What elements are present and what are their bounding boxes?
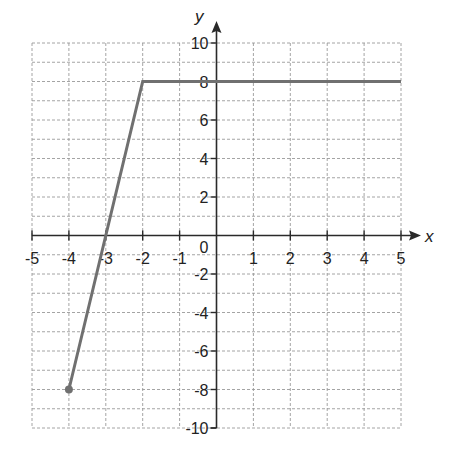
x-tick-labels: -5-4-3-2-112345 [25, 250, 406, 267]
x-tick-label: -2 [136, 250, 150, 267]
data-series [65, 82, 401, 394]
x-tick-label: -5 [25, 250, 39, 267]
x-tick-label: 3 [323, 250, 332, 267]
y-axis-label: y [194, 7, 205, 26]
y-tick-label: -10 [185, 420, 208, 437]
y-tick-label: 6 [200, 112, 209, 129]
x-axis-label: x [424, 227, 434, 246]
y-tick-label: -2 [194, 266, 208, 283]
x-tick-label: 5 [397, 250, 406, 267]
x-tick-label: 4 [360, 250, 369, 267]
y-tick-label: -8 [194, 382, 208, 399]
x-tick-label: 2 [286, 250, 295, 267]
y-tick-label: -4 [194, 305, 208, 322]
y-tick-label: 10 [191, 35, 209, 52]
x-tick-label: -4 [62, 250, 76, 267]
x-tick-label: -1 [172, 250, 186, 267]
closed-endpoint-dot-icon [65, 386, 73, 394]
y-tick-label: -6 [194, 343, 208, 360]
y-tick-label: 4 [200, 151, 209, 168]
coordinate-plane: -5-4-3-2-112345 108642-2-4-6-8-10 0 x y [0, 0, 450, 452]
x-tick-label: 1 [249, 250, 258, 267]
origin-label: 0 [200, 239, 209, 256]
y-tick-label: 2 [200, 189, 209, 206]
